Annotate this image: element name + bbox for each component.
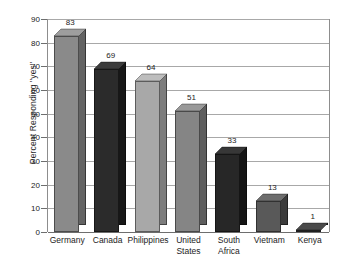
bar-front-face xyxy=(215,154,240,232)
gridline-60 xyxy=(48,90,329,91)
y-tick-label-30: 30 xyxy=(16,157,40,166)
bar-side-face xyxy=(200,104,207,225)
bar-top-face xyxy=(256,194,281,201)
gridline-70 xyxy=(48,66,329,67)
bar-top-face xyxy=(94,62,119,69)
y-tick-label-10: 10 xyxy=(16,204,40,213)
plot-area: 8369645133131 xyxy=(47,19,330,232)
bar-south-africa xyxy=(215,147,240,232)
bar-top-face xyxy=(54,29,79,36)
bar-united-states xyxy=(175,104,200,232)
y-tick-label-60: 60 xyxy=(16,86,40,95)
bar-side-face xyxy=(240,147,247,225)
x-label-kenya: Kenya xyxy=(280,235,340,246)
gridline-0 xyxy=(48,232,329,233)
gridline-80 xyxy=(48,43,329,44)
value-label-vietnam: 13 xyxy=(252,183,292,192)
bar-top-face xyxy=(215,147,240,154)
bar-front-face xyxy=(256,201,281,232)
bar-vietnam xyxy=(256,194,281,232)
bar-side-face xyxy=(79,29,86,225)
bar-chart: Percent Responding "yes" 010203040506070… xyxy=(0,0,341,274)
value-label-germany: 83 xyxy=(50,18,90,27)
y-tick-label-20: 20 xyxy=(16,180,40,189)
y-tick-label-80: 80 xyxy=(16,38,40,47)
bar-side-face xyxy=(119,62,126,225)
value-label-philippines: 64 xyxy=(131,63,171,72)
value-label-south-africa: 33 xyxy=(212,136,252,145)
bar-front-face xyxy=(94,69,119,232)
bar-top-face xyxy=(175,104,200,111)
y-tick-label-40: 40 xyxy=(16,133,40,142)
bar-germany xyxy=(54,29,79,232)
bar-side-face xyxy=(160,74,167,225)
value-label-united-states: 51 xyxy=(172,93,212,102)
bar-top-face xyxy=(135,74,160,81)
y-tick-label-90: 90 xyxy=(16,15,40,24)
y-tick-mark-0 xyxy=(41,232,47,233)
bar-philippines xyxy=(135,74,160,232)
bar-kenya xyxy=(296,223,321,232)
bar-front-face xyxy=(175,111,200,232)
bar-canada xyxy=(94,62,119,232)
value-label-kenya: 1 xyxy=(293,212,333,221)
value-label-canada: 69 xyxy=(91,51,131,60)
y-tick-label-50: 50 xyxy=(16,109,40,118)
bar-top-face xyxy=(296,223,321,230)
bar-front-face xyxy=(54,36,79,232)
y-tick-label-70: 70 xyxy=(16,62,40,71)
bar-front-face xyxy=(296,230,321,232)
bar-front-face xyxy=(135,81,160,232)
